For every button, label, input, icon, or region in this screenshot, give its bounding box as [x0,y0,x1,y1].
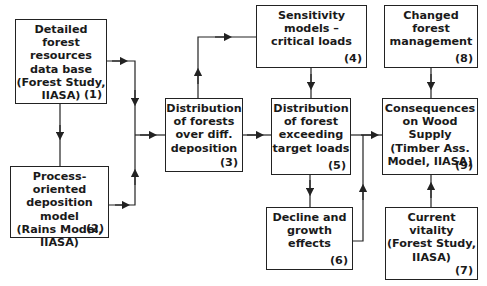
box-forest-resources-database: Detailed forest resources data base (For… [15,19,107,104]
box-wood-supply-consequences: Consequences on Wood Supply (Timber Ass.… [382,98,478,175]
edge-1-3 [107,61,135,135]
box-distribution-over-deposition: Distribution of forests over diff. depos… [165,98,243,172]
edge-6-9 [353,135,363,241]
box-number: (1) [84,88,102,101]
box-label: Changed forest management [385,9,477,49]
box-number: (8) [455,52,473,65]
box-number: (4) [344,52,362,65]
box-deposition-model: Process-oriented deposition model (Rains… [10,166,109,238]
box-number: (7) [455,264,473,277]
edge-3-4 [198,37,256,98]
box-number: (9) [455,159,473,172]
box-number: (3) [220,156,238,169]
box-sensitivity-models: Sensitivity models – critical loads (4) [256,5,367,68]
box-number: (2) [86,222,104,235]
box-changed-forest-management: Changed forest management (8) [384,5,478,68]
box-label: Distribution of forests over diff. depos… [166,102,242,155]
box-current-vitality: Current vitality (Forest Study, IIASA) (… [385,207,478,280]
box-number: (5) [328,159,346,172]
box-label: Current vitality (Forest Study, IIASA) [386,211,477,264]
box-number: (6) [330,254,348,267]
box-label: Process-oriented deposition model (Rains… [11,170,108,249]
box-decline-growth-effects: Decline and growth effects (6) [266,207,353,270]
edge-2-3 [109,135,135,205]
box-label: Distribution of forest exceeding target … [272,102,350,155]
box-label: Decline and growth effects [267,211,352,251]
box-forest-exceeding-loads: Distribution of forest exceeding target … [271,98,351,175]
box-label: Sensitivity models – critical loads [257,9,366,49]
